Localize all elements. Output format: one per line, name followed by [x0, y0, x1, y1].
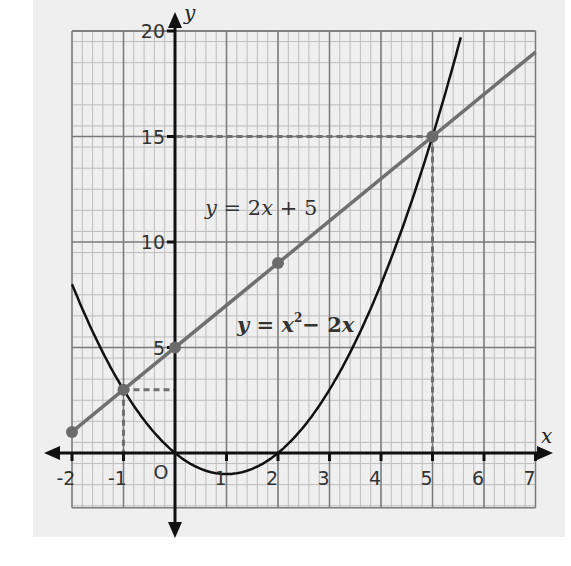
- x-axis-name: x: [541, 424, 552, 448]
- x-tick-label: 3: [317, 467, 329, 489]
- x-tick-label: -2: [57, 467, 76, 489]
- x-tick-label: 2: [266, 467, 278, 489]
- x-tick-label: 6: [472, 467, 484, 489]
- data-point: [427, 131, 439, 143]
- y-tick-label: 5: [153, 337, 165, 359]
- parabola-equation-label: y = x2− 2x: [236, 311, 355, 337]
- y-tick-label: 20: [141, 20, 165, 42]
- data-point: [169, 342, 181, 354]
- data-point: [118, 384, 130, 396]
- x-tick-label: 5: [420, 467, 432, 489]
- major-grid: [72, 31, 536, 508]
- x-tick-label: 1: [214, 467, 226, 489]
- line-equation-label: y = 2x + 5: [204, 196, 317, 220]
- x-tick-label: 7: [523, 467, 535, 489]
- minor-grid: [72, 31, 536, 508]
- y-tick-label: 15: [141, 126, 165, 148]
- x-tick-label: -1: [108, 467, 127, 489]
- x-tick-label: O: [154, 461, 169, 483]
- graph: -2-1O12345675101520 y = 2x + 5 y = x2− 2…: [0, 0, 571, 566]
- y-axis-name: y: [183, 1, 196, 25]
- y-tick-label: 10: [141, 231, 165, 253]
- data-point: [66, 426, 78, 438]
- x-tick-label: 4: [369, 467, 381, 489]
- data-point: [272, 257, 284, 269]
- parabola-curve: [72, 37, 461, 474]
